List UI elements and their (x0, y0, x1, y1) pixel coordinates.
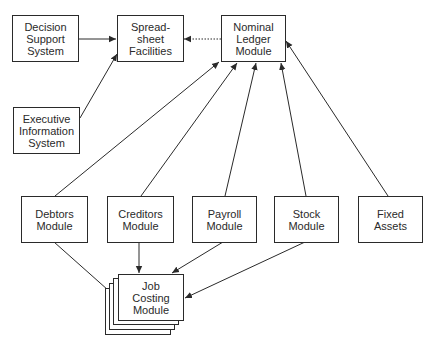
node-label: Executive Information System (19, 113, 74, 149)
edge-stock-to-jobcosting (185, 242, 305, 298)
edge-stock-to-nominal (281, 63, 306, 196)
node-label: Spread- sheet Facilities (129, 21, 172, 57)
node-nominal-ledger-module: Nominal Ledger Module (221, 15, 286, 62)
node-stock-module: Stock Module (274, 196, 339, 243)
node-fixed-assets: Fixed Assets (358, 196, 423, 243)
edge-creditors-to-nominal (141, 63, 237, 196)
node-label: Nominal Ledger Module (233, 21, 273, 57)
node-payroll-module: Payroll Module (192, 196, 257, 243)
node-label: Creditors Module (118, 208, 163, 232)
node-creditors-module: Creditors Module (107, 196, 174, 243)
node-job-costing-module: Job Costing Module (118, 274, 184, 321)
node-label: Stock Module (288, 208, 324, 232)
node-label: Debtors Module (35, 208, 74, 232)
node-label: Fixed Assets (374, 208, 407, 232)
node-debtors-module: Debtors Module (21, 196, 88, 243)
node-label: Job Costing Module (132, 280, 169, 316)
edge-executive-to-spreadsheet (80, 54, 117, 118)
node-label: Payroll Module (206, 208, 242, 232)
accounting-systems-diagram: Decision Support System Spread- sheet Fa… (0, 0, 431, 346)
edge-payroll-to-nominal (225, 63, 256, 196)
node-decision-support-system: Decision Support System (12, 15, 79, 62)
edge-payroll-to-jobcosting (172, 242, 223, 273)
node-spreadsheet-facilities: Spread- sheet Facilities (117, 15, 184, 62)
node-label: Decision Support System (24, 21, 66, 57)
node-executive-information-system: Executive Information System (13, 107, 80, 154)
